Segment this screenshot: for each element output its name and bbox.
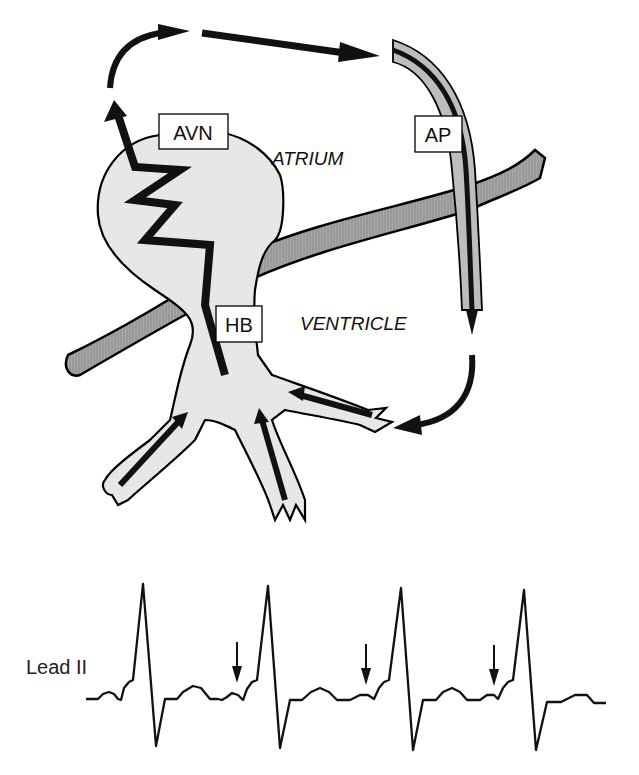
arrowhead-icon	[338, 42, 380, 62]
svg-text:AP: AP	[425, 124, 452, 146]
label-atrium: ATRIUM	[271, 148, 344, 169]
svg-text:HB: HB	[225, 314, 253, 336]
down-arrow-icon	[361, 644, 371, 685]
arrowhead-icon	[158, 24, 190, 40]
ap-arrowhead-icon	[466, 310, 478, 335]
down-arrow-icon	[489, 645, 499, 686]
diagram-canvas: AVN AP HB ATRIUM VENTRICLE Lead II	[0, 0, 639, 775]
ecg-trace	[86, 584, 606, 750]
ecg-lead-label: Lead II	[26, 656, 87, 678]
svg-text:AVN: AVN	[173, 122, 213, 144]
label-ventricle: VENTRICLE	[300, 313, 407, 334]
arrowhead-icon	[393, 415, 422, 435]
label-hb: HB	[216, 306, 262, 342]
down-arrow-icon	[232, 642, 242, 683]
avn-arrowhead-icon	[104, 100, 127, 122]
accessory-pathway	[393, 40, 482, 335]
label-ap: AP	[415, 116, 462, 152]
label-avn: AVN	[159, 114, 228, 149]
